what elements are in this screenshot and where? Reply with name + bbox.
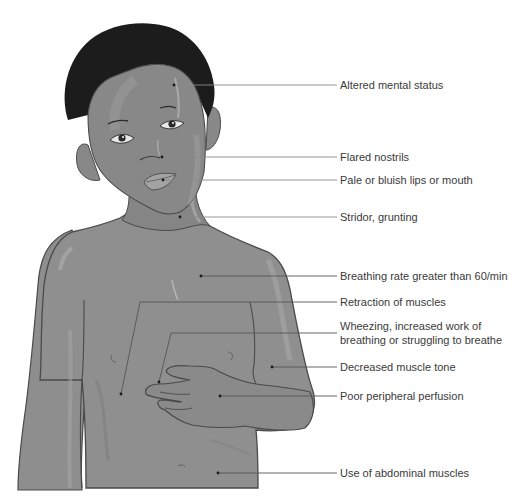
label-breathing-rate: Breathing rate greater than 60/min [340,269,508,283]
label-wheezing-line1: Wheezing, increased work of [340,319,481,333]
label-poor-peripheral-perfusion: Poor peripheral perfusion [340,389,464,403]
child-illustration [0,0,531,504]
label-flared-nostrils: Flared nostrils [340,150,409,164]
head [65,23,221,214]
label-pale-lips: Pale or bluish lips or mouth [340,173,473,187]
label-decreased-muscle-tone: Decreased muscle tone [340,360,456,374]
label-wheezing-line2: breathing or struggling to breathe [340,333,502,347]
label-stridor-grunting: Stridor, grunting [340,210,418,224]
label-abdominal-muscles: Use of abdominal muscles [340,466,469,480]
face [88,64,205,214]
label-retraction-of-muscles: Retraction of muscles [340,295,446,309]
label-altered-mental-status: Altered mental status [340,78,443,92]
torso [18,180,314,490]
